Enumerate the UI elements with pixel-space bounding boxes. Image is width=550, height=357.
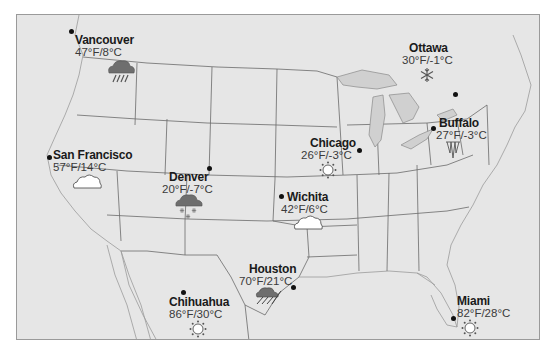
rain-cloud-icon [105,57,137,85]
city-name: San Francisco [53,148,132,162]
city-marker[interactable] [69,29,74,34]
city-temperature: 82°F/28°C [457,307,510,319]
sun-icon [189,320,207,338]
city-name: Wichita [287,190,328,204]
city-marker[interactable] [451,316,456,321]
cloud-icon [71,172,103,190]
city-name: Buffalo [439,116,479,130]
snowflake-icon [419,67,435,83]
map-frame: Vancouver 47°F/8°C Ottawa 30°F/-1°C Buff… [16,14,540,340]
sun-icon [461,319,479,337]
city-temperature: 86°F/30°C [169,308,222,320]
cloud-icon [292,213,324,231]
icicles-icon [445,141,461,159]
city-name: Chihuahua [169,295,229,309]
city-marker[interactable] [279,194,284,199]
thunderstorm-icon [253,285,283,305]
city-name: Miami [457,294,490,308]
city-temperature: 27°F/-3°C [436,129,487,141]
city-temperature: 30°F/-1°C [402,54,453,66]
city-name: Vancouver [75,33,134,47]
city-marker[interactable] [357,148,362,153]
city-temperature: 26°F/-3°C [301,149,352,161]
snow-cloud-icon [174,192,204,220]
city-marker[interactable] [453,92,458,97]
city-name: Denver [169,170,209,184]
city-marker[interactable] [47,155,52,160]
sun-icon [319,161,337,179]
city-name: Houston [249,262,296,276]
city-name: Chicago [310,136,356,150]
city-name: Ottawa [409,41,448,55]
